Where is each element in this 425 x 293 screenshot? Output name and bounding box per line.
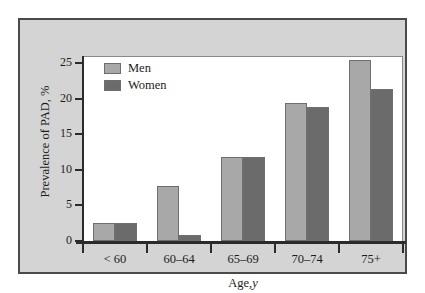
legend: MenWomen (104, 61, 214, 95)
x-axis-line (76, 241, 406, 244)
legend-item-women: Women (104, 78, 214, 93)
y-tick-label-wrap: 0 (28, 234, 72, 246)
chart-panel: 0510152025 Prevalence of PAD, % < 6060–6… (18, 18, 407, 274)
y-tick-mark (75, 62, 83, 64)
y-tick-label: 0 (32, 234, 72, 246)
x-axis-title: Age,y (83, 276, 403, 291)
y-tick-mark (75, 133, 83, 135)
legend-swatch-men (104, 63, 121, 74)
x-tick-label-0: < 60 (80, 252, 150, 267)
bar-men-4 (349, 60, 371, 241)
legend-label-men: Men (128, 62, 151, 75)
bar-women-4 (371, 89, 393, 241)
y-axis-line (82, 56, 84, 242)
legend-item-men: Men (104, 61, 214, 76)
bar-women-0 (115, 223, 137, 241)
y-tick-mark (75, 169, 83, 171)
x-axis-title-italic: y (252, 276, 258, 290)
bar-men-3 (285, 103, 307, 241)
x-tick-label-2: 65–69 (208, 252, 278, 267)
y-tick-mark (75, 98, 83, 100)
y-tick-mark (75, 204, 83, 206)
x-tick-label-1: 60–64 (144, 252, 214, 267)
legend-label-women: Women (128, 79, 167, 92)
y-axis-title: Prevalence of PAD, % (38, 62, 53, 222)
bar-men-0 (93, 223, 115, 241)
bar-women-1 (179, 235, 201, 241)
bar-men-1 (157, 186, 179, 241)
y-tick-mark (75, 240, 83, 242)
bar-men-2 (221, 157, 243, 241)
figure: 0510152025 Prevalence of PAD, % < 6060–6… (0, 0, 425, 293)
legend-swatch-women (104, 80, 121, 91)
bar-women-3 (307, 107, 329, 241)
x-tick-label-4: 75+ (336, 252, 406, 267)
x-axis-title-text: Age, (228, 276, 252, 290)
x-tick-label-3: 70–74 (272, 252, 342, 267)
bar-women-2 (243, 157, 265, 241)
